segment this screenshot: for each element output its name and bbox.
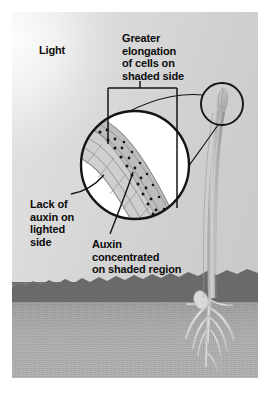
label-greater-elongation: Greater elongation of cells on shaded si…: [122, 32, 184, 82]
label-light: Light: [39, 44, 65, 57]
label-lack-of-auxin: Lack of auxin on lighted side: [30, 198, 74, 248]
illustration-panel: Light Greater elongation of cells on sha…: [12, 12, 258, 378]
phototropism-figure: Light Greater elongation of cells on sha…: [0, 0, 278, 399]
root-system: [186, 298, 234, 370]
label-auxin-concentrated: Auxin concentrated on shaded region: [92, 238, 181, 276]
